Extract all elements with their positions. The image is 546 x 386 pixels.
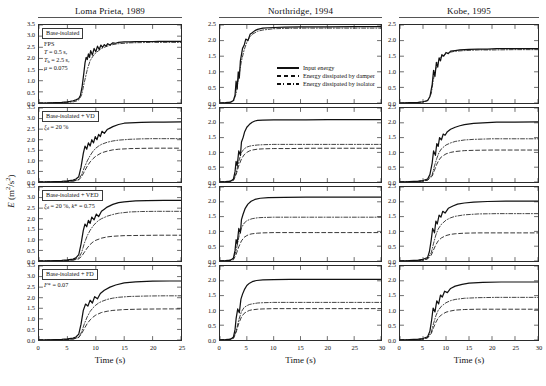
ytick-label: 1.0: [379, 149, 396, 156]
xtick-label: 10: [437, 344, 455, 351]
ytick-label: 0.5: [199, 164, 216, 171]
ytick-label: 2.0: [199, 197, 216, 204]
ytick-label: 2.5: [379, 261, 396, 268]
xtick-label: 20: [483, 344, 501, 351]
annotation-box-row3: Base-isolated + FD: [42, 269, 98, 280]
ytick-label: 2.5: [199, 103, 216, 110]
ytick-label: 0.5: [379, 164, 396, 171]
plot-area-r3-c1: [220, 266, 381, 340]
column-title-rule-2: [399, 17, 539, 18]
series-dash-dot: [400, 50, 538, 103]
xtick-label: 0: [29, 344, 47, 351]
ytick-label: 2.5: [18, 125, 35, 132]
ytick-label: 2.0: [379, 276, 396, 283]
ytick-label: 1.0: [199, 228, 216, 235]
column-title-2: Kobe, 1995: [399, 6, 539, 18]
series-solid: [220, 197, 381, 261]
ytick-label: 3.5: [18, 261, 35, 268]
series-dash-dot: [220, 302, 381, 340]
panel-r3-c1: [219, 265, 382, 341]
panel-r1-c1: [219, 107, 382, 183]
plot-area-r2-c2: [400, 187, 538, 261]
annotation-notes-row1: ξd = 20 %: [44, 123, 68, 131]
ytick-label: 2.0: [199, 118, 216, 125]
ytick-label: 3.0: [18, 114, 35, 121]
xtick-label: 5: [237, 344, 255, 351]
xtick-label: 0: [390, 344, 408, 351]
ytick-label: 1.0: [379, 68, 396, 75]
xtick-label: 25: [346, 344, 364, 351]
series-solid: [39, 122, 181, 182]
ytick-label: 2.0: [18, 215, 35, 222]
plot-area-r1-c2: [400, 108, 538, 182]
series-dash-dot: [220, 144, 381, 182]
panel-r0-c2: [399, 24, 539, 104]
ytick-label: 1.5: [18, 304, 35, 311]
column-title-0: Loma Prieta, 1989: [38, 6, 182, 18]
series-dashed: [220, 309, 381, 340]
ytick-label: 0.5: [18, 168, 35, 175]
ytick-label: 1.5: [18, 146, 35, 153]
panel-r2-c2: [399, 186, 539, 262]
ytick-label: 2.0: [379, 36, 396, 43]
series-solid: [220, 120, 381, 182]
ytick-label: 2.5: [18, 204, 35, 211]
ytick-label: 1.5: [199, 52, 216, 59]
ytick-label: 0.5: [379, 84, 396, 91]
ytick-label: 0.5: [379, 243, 396, 250]
series-dash-dot: [220, 217, 381, 261]
annotation-box-row1: Base-isolated + VD: [42, 111, 99, 122]
ytick-label: 2.5: [379, 103, 396, 110]
panel-r2-c1: [219, 186, 382, 262]
series-dash-dot: [400, 139, 538, 182]
xtick-label: 20: [144, 344, 162, 351]
ytick-label: 3.0: [18, 272, 35, 279]
series-solid: [400, 282, 538, 340]
plot-area-r1-c1: [220, 108, 381, 182]
series-solid: [400, 201, 538, 261]
ytick-label: 0.0: [18, 337, 35, 344]
ytick-label: 0.5: [18, 326, 35, 333]
ytick-label: 3.5: [18, 182, 35, 189]
annotation-notes-row0: FPST = 0.5 s,Tb = 2.5 s,μ = 0.075: [44, 40, 70, 72]
series-dashed: [220, 148, 381, 182]
column-title-text-2: Kobe, 1995: [447, 6, 491, 16]
series-dash-dot: [39, 139, 181, 182]
ytick-label: 2.5: [379, 182, 396, 189]
xtick-label: 10: [87, 344, 105, 351]
xtick-label: 15: [115, 344, 133, 351]
series-solid: [400, 49, 538, 103]
series-dashed: [39, 309, 181, 340]
annotation-notes-row3: F* = 0.07: [44, 281, 68, 289]
series-solid: [220, 279, 381, 340]
annotation-box-row2: Base-isolated + VED: [42, 190, 103, 201]
ytick-label: 0.0: [379, 337, 396, 344]
annotation-notes-row2: ξd = 20 %, k* = 0.75: [44, 202, 95, 210]
plot-area-r0-c2: [400, 25, 538, 103]
x-axis-label-col1: Time (s): [219, 355, 382, 365]
panel-r3-c2: [399, 265, 539, 341]
ytick-label: 3.0: [18, 193, 35, 200]
ytick-label: 1.0: [199, 149, 216, 156]
xtick-label: 25: [507, 344, 525, 351]
column-title-rule-1: [219, 17, 382, 18]
panel-r1-c2: [399, 107, 539, 183]
x-axis-label-col2: Time (s): [399, 355, 539, 365]
series-dashed: [220, 233, 381, 261]
ytick-label: 1.5: [199, 212, 216, 219]
ytick-label: 0.5: [199, 243, 216, 250]
series-solid: [400, 122, 538, 182]
ytick-label: 1.0: [18, 315, 35, 322]
series-solid: [39, 281, 181, 340]
xtick-label: 0: [210, 344, 228, 351]
ytick-label: 0.0: [199, 337, 216, 344]
series-dashed: [400, 233, 538, 261]
ytick-label: 1.5: [18, 225, 35, 232]
ytick-label: 2.0: [199, 36, 216, 43]
legend-key-solid: [277, 67, 299, 68]
xtick-label: 25: [173, 344, 191, 351]
plot-area-r2-c1: [220, 187, 381, 261]
ytick-label: 2.0: [18, 54, 35, 61]
ytick-label: 0.5: [379, 322, 396, 329]
ytick-label: 0.5: [18, 247, 35, 254]
